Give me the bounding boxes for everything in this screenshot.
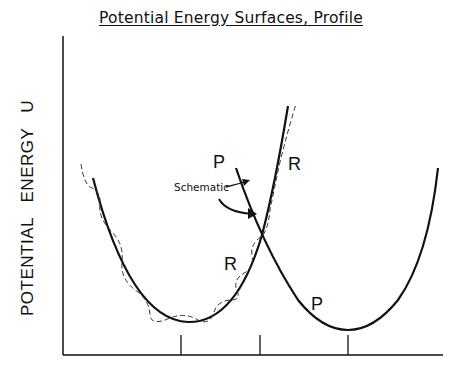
reactant-curve — [93, 106, 288, 322]
label-schematic: Schematic — [174, 181, 229, 193]
label-p-upper: P — [213, 152, 225, 172]
label-p-lower: P — [311, 294, 323, 314]
potential-energy-diagram: P R R P Schematic — [0, 0, 462, 367]
reactant-dashed-curve — [81, 104, 296, 322]
label-r-upper: R — [288, 154, 301, 174]
arrowhead-icon — [242, 179, 250, 186]
label-r-lower: R — [224, 254, 237, 274]
product-curve — [236, 168, 438, 330]
